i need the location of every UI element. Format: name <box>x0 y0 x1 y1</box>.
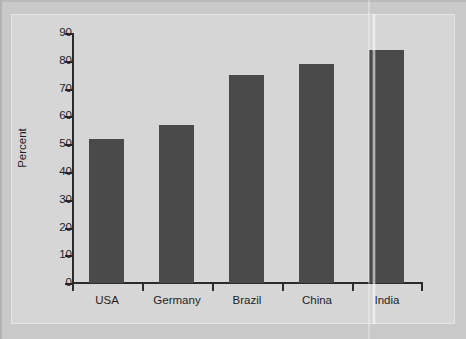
x-label-brazil: Brazil <box>212 294 282 306</box>
y-tick-label-60: 60 <box>32 110 72 121</box>
bar-brazil[interactable] <box>229 75 264 283</box>
bar-china[interactable] <box>299 64 334 283</box>
y-tick-label-0: 0 <box>32 277 72 288</box>
x-tick-3 <box>282 283 284 291</box>
y-tick-label-70: 70 <box>32 83 72 94</box>
y-tick-label-20: 20 <box>32 222 72 233</box>
x-label-india: India <box>352 294 422 306</box>
x-label-usa: USA <box>72 294 142 306</box>
y-tick-label-10: 10 <box>32 249 72 260</box>
y-tick-label-80: 80 <box>32 55 72 66</box>
x-tick-0 <box>72 283 74 291</box>
x-label-germany: Germany <box>142 294 212 306</box>
y-tick-label-40: 40 <box>32 166 72 177</box>
x-tick-1 <box>142 283 144 291</box>
y-tick-label-50: 50 <box>32 138 72 149</box>
bar-usa[interactable] <box>89 139 124 283</box>
y-axis-line <box>72 33 74 283</box>
x-tick-2 <box>212 283 214 291</box>
bar-chart: Percent 0 10 20 30 40 50 60 70 80 90 USA… <box>0 0 466 339</box>
bar-india[interactable] <box>369 50 404 283</box>
y-tick-label-30: 30 <box>32 194 72 205</box>
x-tick-4 <box>352 283 354 291</box>
x-label-china: China <box>282 294 352 306</box>
x-axis-end-tick <box>421 282 423 291</box>
bar-germany[interactable] <box>159 125 194 283</box>
y-tick-label-90: 90 <box>32 27 72 38</box>
